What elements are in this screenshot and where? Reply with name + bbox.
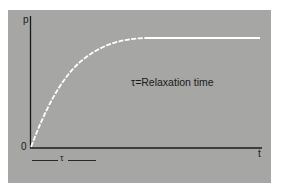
y-axis-label: p xyxy=(23,15,29,25)
tau-marker-label: τ xyxy=(60,154,64,163)
legend-text: τ=Relaxation time xyxy=(131,77,214,88)
relaxation-curve-rising xyxy=(31,38,145,147)
x-axis-label: t xyxy=(258,149,261,159)
origin-label: 0 xyxy=(21,142,27,152)
relaxation-diagram xyxy=(0,0,282,193)
